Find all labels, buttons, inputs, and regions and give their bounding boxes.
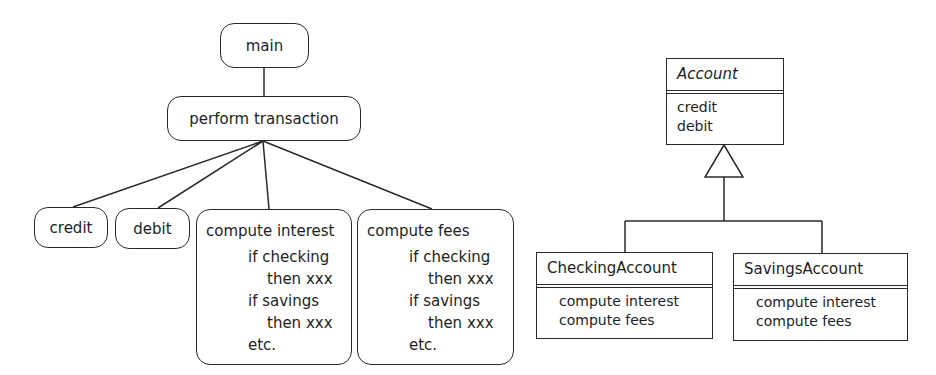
line: if checking [206, 246, 351, 268]
line: etc. [206, 334, 351, 356]
node-credit: credit [34, 207, 108, 248]
class-ops: compute interest compute fees [537, 288, 712, 330]
class-account: Account credit debit [666, 58, 784, 145]
line: if checking [367, 246, 513, 268]
node-main: main [220, 23, 309, 68]
node-debit: debit [115, 208, 190, 249]
class-name: Account [667, 59, 783, 94]
op: credit [677, 98, 783, 117]
line: if savings [206, 290, 351, 312]
line: then xxx [367, 312, 513, 334]
class-ops: compute interest compute fees [734, 289, 907, 331]
node-perform-label: perform transaction [189, 110, 338, 128]
line: then xxx [367, 268, 513, 290]
class-savings-account: SavingsAccount compute interest compute … [733, 253, 908, 341]
edge-perform-interest [263, 141, 269, 209]
node-credit-label: credit [50, 219, 93, 237]
line: etc. [367, 334, 513, 356]
line: if savings [367, 290, 513, 312]
node-perform-transaction: perform transaction [167, 96, 361, 141]
edge-perform-fees [263, 141, 432, 209]
inheritance-triangle-icon [705, 145, 743, 177]
line: then xxx [206, 268, 351, 290]
op: debit [677, 117, 783, 136]
edge-perform-debit [158, 141, 263, 208]
line: then xxx [206, 312, 351, 334]
class-name: CheckingAccount [537, 253, 712, 288]
edge-perform-credit [73, 141, 263, 207]
op: compute fees [756, 312, 907, 331]
node-main-label: main [246, 37, 283, 55]
op: compute interest [559, 292, 712, 311]
node-compute-fees: compute fees if checking then xxx if sav… [357, 209, 514, 365]
class-ops: credit debit [667, 94, 783, 136]
title: compute fees [367, 220, 513, 242]
class-checking-account: CheckingAccount compute interest compute… [536, 252, 713, 339]
class-name: SavingsAccount [734, 254, 907, 289]
node-debit-label: debit [133, 220, 171, 238]
op: compute fees [559, 311, 712, 330]
node-compute-interest: compute interest if checking then xxx if… [196, 209, 352, 365]
op: compute interest [756, 293, 907, 312]
title: compute interest [206, 220, 351, 242]
